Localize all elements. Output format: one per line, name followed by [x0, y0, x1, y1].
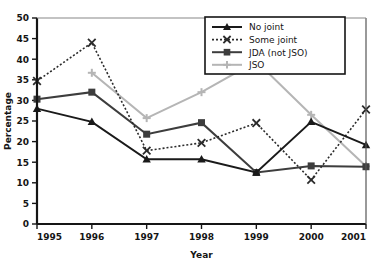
x-tick-label: 1997 — [134, 232, 159, 242]
chart-canvas: 05101520253035404550 1995199619971998199… — [0, 0, 377, 269]
y-tick-label: 25 — [16, 116, 29, 126]
series-jda-not-jso — [34, 89, 370, 176]
y-tick-label: 45 — [16, 34, 29, 44]
x-tick-label: 2001 — [341, 232, 366, 242]
x-axis-title: Year — [189, 250, 213, 260]
y-axis-title: Percentage — [3, 92, 13, 150]
y-tick-label: 10 — [16, 178, 29, 188]
y-tick-label: 15 — [16, 158, 29, 168]
legend-label: No joint — [249, 22, 284, 32]
y-tick-label: 5 — [23, 199, 29, 209]
x-axis: 1995199619971998199920002001 — [37, 224, 366, 242]
legend-label: Some joint — [249, 35, 298, 45]
legend-label: JDA (not JSO) — [248, 48, 308, 58]
x-tick-label: 2000 — [299, 232, 324, 242]
x-tick-label: 1999 — [244, 232, 269, 242]
y-tick-label: 40 — [16, 55, 29, 65]
y-axis: 05101520253035404550 — [16, 13, 37, 229]
x-tick-label: 1998 — [189, 232, 214, 242]
legend-label: JSO — [248, 60, 264, 70]
y-tick-label: 35 — [16, 75, 29, 85]
chart-legend: No jointSome jointJDA (not JSO)JSO — [205, 17, 345, 74]
y-tick-label: 20 — [16, 137, 29, 147]
x-tick-label: 1996 — [79, 232, 104, 242]
y-tick-label: 50 — [16, 13, 29, 23]
x-tick-label: 1995 — [37, 232, 62, 242]
y-tick-label: 0 — [23, 219, 29, 229]
line-chart: 05101520253035404550 1995199619971998199… — [0, 0, 377, 269]
y-tick-label: 30 — [16, 96, 29, 106]
